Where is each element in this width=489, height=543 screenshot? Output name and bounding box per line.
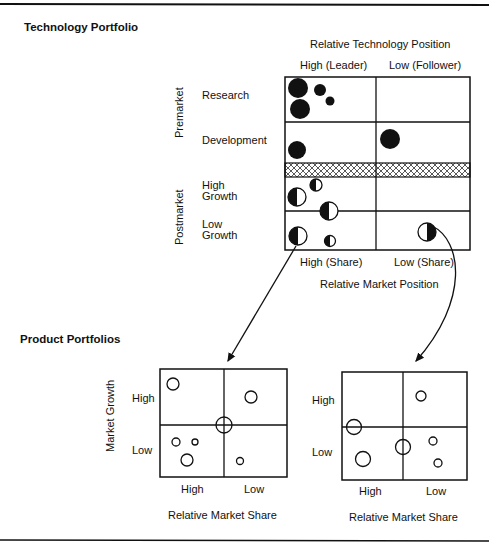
bottom-header-low-share: Low (Share) [394,256,454,268]
filled-bubble [290,99,310,119]
pp2-col-label-low: Low [426,485,446,497]
pp2-x-axis-title: Relative Market Share [349,511,458,523]
matrix-border [342,372,467,480]
product-portfolio-matrices [160,369,467,480]
connector-arrows [228,226,456,361]
filled-bubble [288,141,306,159]
bottom-axis-title: Relative Market Position [320,278,439,290]
technology-product-portfolio-figure: Technology Portfolio Relative Technology… [0,0,489,543]
pp1-col-label-low: Low [244,483,264,495]
market-growth-axis-title: Market Growth [104,380,116,452]
pp2-row-label-low: Low [312,446,332,458]
row-label-low-growth-2: Growth [202,229,237,241]
pp1-x-axis-title: Relative Market Share [168,509,277,521]
half-filled-bubble [289,227,307,245]
column-header-low-follower: Low (Follower) [389,59,461,71]
product-bubble [172,438,180,446]
half-filled-bubble [310,179,322,191]
bottom-rule [0,540,489,541]
pp1-row-label-high: High [132,392,155,404]
product-portfolio-matrix-2 [342,372,467,480]
product-bubble [356,452,371,467]
filled-bubble [326,97,335,106]
pp1-col-label-high: High [181,483,204,495]
technology-matrix [285,77,470,250]
filled-bubble [380,129,400,149]
product-bubble [245,391,257,403]
product-bubble [434,459,442,467]
pp1-row-label-low: Low [132,444,152,456]
hatched-band [285,163,470,177]
bottom-header-high-share: High (Share) [300,256,362,268]
figure-canvas: Technology Portfolio Relative Technology… [0,0,489,543]
pp2-col-label-high: High [359,485,382,497]
product-bubble [429,437,437,445]
half-filled-bubble [288,188,306,206]
row-group-premarket: Premarket [173,87,185,138]
half-filled-bubble [320,202,338,220]
row-label-research: Research [202,89,249,101]
product-bubble [237,458,244,465]
technology-portfolio-title: Technology Portfolio [24,21,138,33]
filled-bubble [314,84,326,96]
product-portfolios-title: Product Portfolios [20,333,120,345]
product-bubble [192,439,198,445]
connector-arrow [416,226,456,361]
pp2-row-label-high: High [312,394,335,406]
column-axis-title: Relative Technology Position [310,38,450,50]
column-header-high-leader: High (Leader) [300,59,367,71]
product-portfolio-matrix-1 [160,369,287,477]
filled-bubble [288,78,308,98]
half-filled-bubble [418,223,436,241]
row-label-development: Development [202,134,267,146]
row-label-high-growth-2: Growth [202,190,237,202]
connector-arrow [228,246,296,361]
product-bubble [416,391,426,401]
top-rule [0,4,489,5]
technology-bubbles [288,78,436,247]
product-bubble [181,454,193,466]
half-filled-bubble [325,236,336,247]
product-bubble [167,378,179,390]
row-group-postmarket: Postmarket [173,189,185,245]
